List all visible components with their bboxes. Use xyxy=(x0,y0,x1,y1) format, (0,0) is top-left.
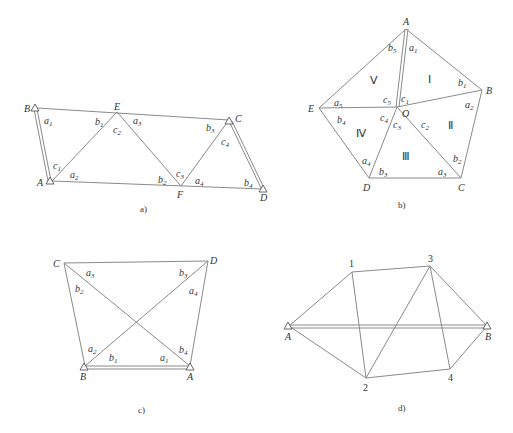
angle-a2: a2 xyxy=(70,169,79,182)
caption-a: a) xyxy=(140,204,147,214)
angle-b4: b4 xyxy=(337,114,346,127)
edge-34 xyxy=(430,266,450,369)
region-IV: Ⅳ xyxy=(356,127,367,139)
point-label-B: B xyxy=(486,85,492,96)
edge-4B xyxy=(450,326,487,369)
baseline-AB xyxy=(85,366,190,369)
edge-23 xyxy=(366,266,430,378)
angle-a3: a3 xyxy=(86,267,95,280)
point-label-D: D xyxy=(209,255,218,266)
angle-a1: a1 xyxy=(44,115,53,128)
figure-d: A B 1 3 2 4 d) xyxy=(284,253,491,413)
edge-DB xyxy=(85,261,208,366)
point-label-E: E xyxy=(307,103,314,114)
angle-b1: b1 xyxy=(95,116,104,129)
point-label-F: F xyxy=(176,189,184,200)
point-label-A: A xyxy=(36,177,44,188)
edge-AE xyxy=(52,112,117,181)
angle-c3: c3 xyxy=(176,168,184,181)
edge-FC xyxy=(181,120,229,186)
angle-b2: b2 xyxy=(453,153,462,166)
angle-b2: b2 xyxy=(75,283,84,296)
angle-c2: c2 xyxy=(421,119,429,132)
point-label-D: D xyxy=(362,182,371,193)
point-label-A: A xyxy=(284,331,292,342)
triangulation-diagrams: B A E C F D a1 b1 c1 a2 c2 b2 a3 c3 b3 c… xyxy=(0,0,513,433)
angle-b5: b5 xyxy=(388,42,397,55)
point-label-B: B xyxy=(485,331,491,342)
angle-a3: a3 xyxy=(438,166,447,179)
angle-a1: a1 xyxy=(160,352,169,365)
angle-c4: c4 xyxy=(221,136,229,149)
point-label-A: A xyxy=(186,371,194,382)
station-marker-B xyxy=(31,104,39,111)
angle-c2: c2 xyxy=(113,124,121,137)
edge-CA xyxy=(64,263,190,366)
region-V: Ⅴ xyxy=(370,74,378,86)
edge-3B xyxy=(430,266,487,326)
angle-a4: a4 xyxy=(189,285,198,298)
station-marker-C xyxy=(225,117,233,124)
point-label-C: C xyxy=(53,258,60,269)
point-label-3: 3 xyxy=(428,253,433,264)
point-label-1: 1 xyxy=(349,258,354,269)
edge-CD xyxy=(64,261,208,263)
point-label-C: C xyxy=(235,113,242,124)
figure-a: B A E C F D a1 b1 c1 a2 c2 b2 a3 c3 b3 c… xyxy=(24,101,268,214)
edge-A1 xyxy=(289,272,352,326)
point-label-D: D xyxy=(259,192,268,203)
caption-b: b) xyxy=(398,200,406,210)
point-label-B: B xyxy=(80,371,86,382)
point-label-C: C xyxy=(458,182,465,193)
figure-c: C D B A a3 b2 b3 a4 a2 b1 a1 b4 c) xyxy=(53,255,218,415)
point-label-A: A xyxy=(402,16,410,27)
angle-b1: b1 xyxy=(109,352,118,365)
edge-A2 xyxy=(289,326,366,378)
angle-b1: b1 xyxy=(458,77,467,90)
angle-a2: a2 xyxy=(465,99,474,112)
angle-a4: a4 xyxy=(362,155,371,168)
edge-DA xyxy=(190,261,208,366)
region-I: Ⅰ xyxy=(428,73,431,85)
angle-c1: c1 xyxy=(401,93,409,106)
edge-EF xyxy=(117,112,181,186)
angle-b3: b3 xyxy=(379,166,388,179)
angle-a1: a1 xyxy=(409,42,418,55)
figure-b: A B C D E O Ⅴ Ⅰ Ⅱ Ⅲ Ⅳ b5 a1 b1 a2 c5 c1 … xyxy=(307,16,492,210)
angle-a3: a3 xyxy=(133,115,142,128)
point-label-B: B xyxy=(24,103,30,114)
caption-d: d) xyxy=(398,403,406,413)
angle-b4: b4 xyxy=(179,344,188,357)
edge-13 xyxy=(352,266,430,272)
caption-c: c) xyxy=(138,405,145,415)
point-label-2: 2 xyxy=(363,382,368,393)
angle-c5: c5 xyxy=(383,94,391,107)
region-II: Ⅱ xyxy=(448,119,453,131)
point-label-O: O xyxy=(402,108,409,119)
edge-CB xyxy=(64,263,85,366)
baseline-AB xyxy=(289,325,487,328)
angle-b3: b3 xyxy=(206,122,215,135)
point-label-4: 4 xyxy=(448,372,453,383)
angle-c4: c4 xyxy=(380,112,388,125)
angle-a2: a2 xyxy=(88,343,97,356)
region-III: Ⅲ xyxy=(402,150,410,162)
point-label-E: E xyxy=(113,101,120,112)
angle-c3: c3 xyxy=(393,119,401,132)
edge-OE xyxy=(319,107,397,108)
edge-24 xyxy=(366,369,450,378)
angle-c1: c1 xyxy=(53,160,61,173)
angle-b3: b3 xyxy=(179,267,188,280)
